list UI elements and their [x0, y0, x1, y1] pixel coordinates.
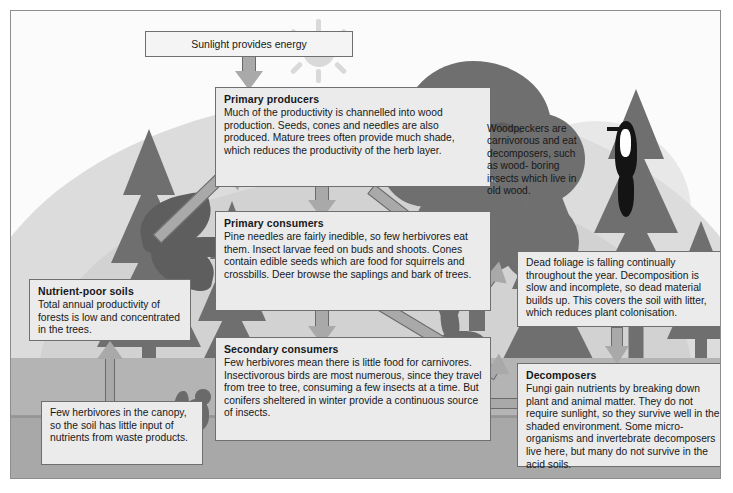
box-primary-producers: Primary producers Much of the productivi… [215, 87, 491, 187]
box-decomposers: Decomposers Fungi gain nutrients by brea… [517, 363, 721, 467]
box-secondary-consumers: Secondary consumers Few herbivores mean … [215, 337, 491, 441]
primary-producers-title: Primary producers [224, 93, 483, 106]
nutrient-poor-soils-title: Nutrient-poor soils [38, 285, 183, 298]
sunlight-label-box: Sunlight provides energy [145, 31, 353, 57]
primary-consumers-title: Primary consumers [224, 217, 483, 230]
secondary-consumers-title: Secondary consumers [224, 343, 483, 356]
woodpeckers-body: Woodpeckers are carnivorous and eat deco… [487, 123, 579, 197]
box-dead-foliage: Dead foliage is falling continually thro… [517, 251, 721, 327]
illustration-frame: Sunlight provides energy Primary produce… [10, 10, 721, 479]
dead-foliage-body: Dead foliage is falling continually thro… [526, 257, 721, 320]
woodpecker-icon [605, 115, 649, 225]
box-primary-consumers: Primary consumers Pine needles are fairl… [215, 211, 491, 311]
diagram-canvas: Sunlight provides energy Primary produce… [0, 0, 733, 493]
sunlight-label: Sunlight provides energy [191, 38, 307, 50]
decomposers-body: Fungi gain nutrients by breaking down pl… [526, 383, 721, 471]
decomposers-title: Decomposers [526, 369, 721, 382]
arrow-sunlight-to-primary-producers [235, 56, 263, 90]
secondary-consumers-body: Few herbivores mean there is little food… [224, 357, 483, 420]
box-nutrient-poor-soils: Nutrient-poor soils Total annual product… [29, 279, 191, 341]
primary-consumers-body: Pine needles are fairly inedible, so few… [224, 231, 483, 281]
arrow-dead-foliage-to-decomposers [605, 327, 629, 365]
box-woodpeckers: Woodpeckers are carnivorous and eat deco… [481, 119, 585, 203]
few-herbivores-body: Few herbivores in the canopy, so the soi… [50, 407, 195, 445]
primary-producers-body: Much of the productivity is channelled i… [224, 107, 483, 157]
arrow-few-herbivores-to-nutrient-poor-soils [97, 341, 123, 407]
box-few-herbivores: Few herbivores in the canopy, so the soi… [41, 401, 203, 465]
nutrient-poor-soils-body: Total annual productivity of forests is … [38, 299, 183, 337]
